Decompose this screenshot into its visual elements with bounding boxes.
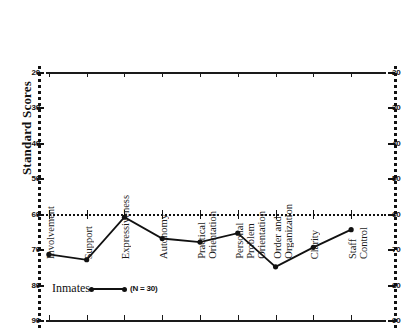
category-label-7: Clarity xyxy=(309,230,320,259)
category-label-1: Support xyxy=(83,226,94,259)
data-point-6 xyxy=(273,264,278,269)
legend: Inmates (N = 30) xyxy=(52,281,158,296)
y-tick-label-left: 70 xyxy=(20,245,40,254)
y-tick-label-right: 60 xyxy=(392,209,412,218)
category-label-3: Autonomy xyxy=(158,214,169,259)
y-tick-label-left: 90 xyxy=(20,316,40,325)
legend-label: Inmates xyxy=(52,281,90,296)
bottom-axis-line xyxy=(46,320,386,322)
y-tick-label-left: 50 xyxy=(20,174,40,183)
y-tick-label-left: 30 xyxy=(20,103,40,112)
y-tick-label-right: 70 xyxy=(392,245,412,254)
category-label-2: Expressiveness xyxy=(120,195,131,259)
y-tick-label-left: 80 xyxy=(20,280,40,289)
y-tick-label-right: 80 xyxy=(392,280,412,289)
legend-sample-size: (N = 30) xyxy=(130,284,158,293)
category-label-6: Order and Organization xyxy=(272,204,294,259)
category-label-0: Involvement xyxy=(45,206,56,259)
y-tick-label-right: 30 xyxy=(392,103,412,112)
category-label-4: Practical Orientation xyxy=(196,211,218,259)
y-tick-label-left: 60 xyxy=(20,209,40,218)
y-tick-label-left: 20 xyxy=(20,68,40,77)
legend-line-swatch xyxy=(91,288,125,290)
y-tick-label-right: 40 xyxy=(392,138,412,147)
category-label-5: Personal Problem Orientation xyxy=(234,211,267,259)
y-tick-label-left: 40 xyxy=(20,138,40,147)
category-label-8: Staff Control xyxy=(347,227,369,259)
y-tick-label-right: 90 xyxy=(392,316,412,325)
chart-canvas: Standard Scores 909080807070606050504040… xyxy=(0,0,412,333)
y-tick-label-right: 20 xyxy=(392,68,412,77)
y-tick-label-right: 50 xyxy=(392,174,412,183)
